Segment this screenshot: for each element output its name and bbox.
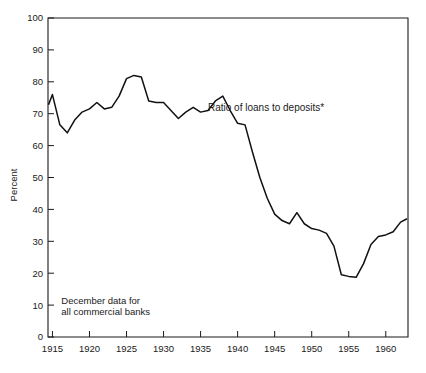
y-tick-label-0: 0 — [38, 331, 43, 342]
y-axis-tick-labels: 0102030405060708090100 — [27, 12, 43, 342]
x-tick-label-1945: 1945 — [264, 343, 285, 354]
svg-text:Percent: Percent — [8, 168, 19, 201]
x-tick-label-1920: 1920 — [79, 343, 100, 354]
x-axis-ticks — [52, 331, 385, 337]
source-note-line-2: all commercial banks — [61, 306, 150, 317]
y-tick-label-20: 20 — [32, 268, 43, 279]
y-tick-label-100: 100 — [27, 12, 43, 23]
y-tick-label-80: 80 — [32, 76, 43, 87]
x-axis-tick-labels: 1915192019251930193519401945195019551960 — [42, 343, 396, 354]
y-tick-label-40: 40 — [32, 204, 43, 215]
chart-annotations: Ratio of loans to deposits*December data… — [61, 102, 324, 317]
source-note-line-1: December data for — [61, 295, 140, 306]
x-tick-label-1940: 1940 — [227, 343, 248, 354]
x-tick-label-1960: 1960 — [375, 343, 396, 354]
x-tick-label-1935: 1935 — [190, 343, 211, 354]
ratio-of-loans-to-deposits-chart: 0102030405060708090100 19151920192519301… — [0, 0, 426, 373]
chart-container: 0102030405060708090100 19151920192519301… — [0, 0, 426, 373]
y-tick-label-60: 60 — [32, 140, 43, 151]
y-tick-label-70: 70 — [32, 108, 43, 119]
series-annotation: Ratio of loans to deposits* — [208, 102, 324, 113]
x-tick-label-1925: 1925 — [116, 343, 137, 354]
y-axis-ticks — [48, 18, 54, 337]
plot-frame — [48, 18, 408, 337]
y-axis-title: Percent — [8, 168, 19, 201]
x-tick-label-1915: 1915 — [42, 343, 63, 354]
y-tick-label-10: 10 — [32, 300, 43, 311]
y-tick-label-50: 50 — [32, 172, 43, 183]
x-tick-label-1950: 1950 — [301, 343, 322, 354]
y-tick-label-90: 90 — [32, 44, 43, 55]
x-tick-label-1955: 1955 — [338, 343, 359, 354]
y-tick-label-30: 30 — [32, 236, 43, 247]
x-tick-label-1930: 1930 — [153, 343, 174, 354]
